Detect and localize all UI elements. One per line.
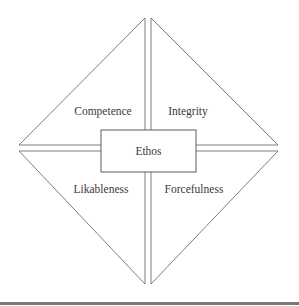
bottom-rule	[0, 302, 299, 305]
quadrant-label-top-right: Integrity	[168, 105, 208, 118]
center-label: Ethos	[135, 145, 162, 157]
quadrant-top-right-shape	[151, 18, 278, 145]
quadrant-top-left-shape	[19, 18, 145, 145]
quadrant-label-top-left: Competence	[74, 105, 131, 118]
quadrant-label-bottom-left: Likableness	[74, 183, 129, 195]
quadrant-label-bottom-right: Forcefulness	[165, 183, 224, 195]
ethos-diagram: Ethos Competence Integrity Likableness F…	[0, 0, 299, 306]
